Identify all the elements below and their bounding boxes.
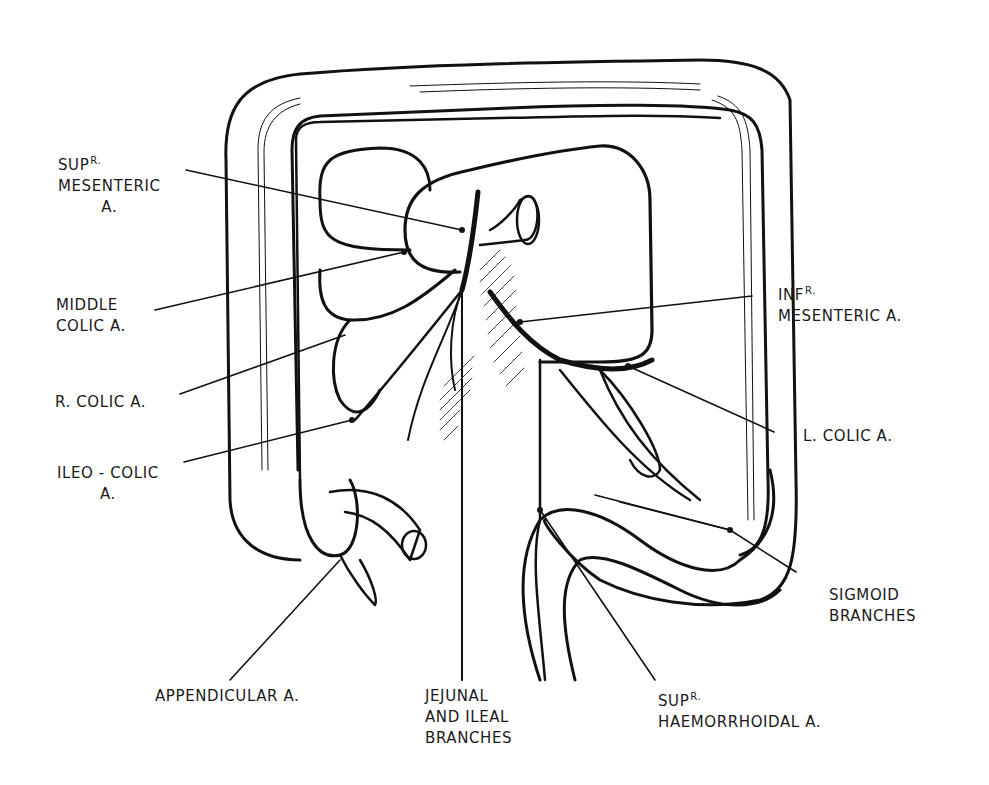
sigmoid-branch-1: [560, 370, 690, 500]
colon-artery-illustration: [0, 0, 989, 785]
sigmoid-colon-inner: [564, 557, 780, 680]
mesentery-hatching: [440, 250, 524, 440]
label-text: MESENTERIC A.: [778, 306, 902, 327]
label-text: SUP: [58, 156, 89, 174]
label-text: SUP: [658, 692, 689, 710]
duodenum: [480, 196, 537, 245]
label-text: A.: [57, 484, 159, 505]
label-text: INF: [778, 286, 804, 304]
right-colic-loop: [320, 270, 455, 320]
label-superscript: R.: [90, 155, 101, 166]
label-r-colic-a: R. COLIC A.: [55, 392, 146, 413]
appendix: [340, 555, 376, 605]
label-text: ILEO - COLIC: [57, 463, 159, 484]
label-text: R. COLIC A.: [55, 392, 146, 413]
label-text: SIGMOID: [829, 585, 916, 606]
label-text: JEJUNAL: [425, 686, 512, 707]
label-text: AND ILEAL: [425, 707, 512, 728]
ileo-colic-branch: [408, 290, 462, 440]
colon-inner-wall: [292, 105, 768, 555]
sup-mesenteric-trunk: [462, 192, 478, 290]
label-text: MESENTERIC: [58, 176, 161, 197]
ileo-colic-trunk: [355, 290, 462, 420]
taenia-right: [712, 100, 748, 520]
label-text: COLIC A.: [56, 316, 126, 337]
duodenum-opening: [517, 196, 539, 244]
label-text: APPENDICULAR A.: [155, 686, 299, 707]
label-l-colic-a: L. COLIC A.: [803, 426, 893, 447]
label-text: BRANCHES: [829, 606, 916, 627]
label-ileo-colic-a: ILEO - COLIC A.: [57, 463, 159, 505]
label-middle-colic-a: MIDDLE COLIC A.: [56, 295, 126, 337]
label-sigmoid-branches: SIGMOID BRANCHES: [829, 585, 916, 627]
label-sup-haemorrhoidal-a: SUPR. HAEMORRHOIDAL A.: [658, 686, 821, 733]
caecum: [300, 480, 357, 556]
label-superscript: R.: [690, 691, 701, 702]
taenia-top: [410, 82, 700, 86]
inf-mesenteric-trunk: [490, 292, 652, 369]
label-superscript: R.: [805, 285, 816, 296]
taenia-top-2: [420, 88, 700, 92]
sigmoid-loop: [600, 370, 660, 477]
label-text: BRANCHES: [425, 728, 512, 749]
label-appendicular-a: APPENDICULAR A.: [155, 686, 299, 707]
label-inf-mesenteric-a: INFR. MESENTERIC A.: [778, 280, 902, 327]
label-text: HAEMORRHOIDAL A.: [658, 712, 821, 733]
ileum-end: [330, 490, 420, 560]
label-text: MIDDLE: [56, 295, 126, 316]
label-text: L. COLIC A.: [803, 426, 893, 447]
label-sup-mesenteric-a: SUPR. MESENTERIC A.: [58, 150, 161, 218]
label-jejunal-ileal-branches: JEJUNAL AND ILEAL BRANCHES: [425, 686, 512, 749]
label-text: A.: [58, 197, 161, 218]
taenia-right-2: [718, 96, 754, 520]
colon-outer-wall: [226, 60, 796, 605]
middle-colic-loop: [405, 146, 652, 362]
